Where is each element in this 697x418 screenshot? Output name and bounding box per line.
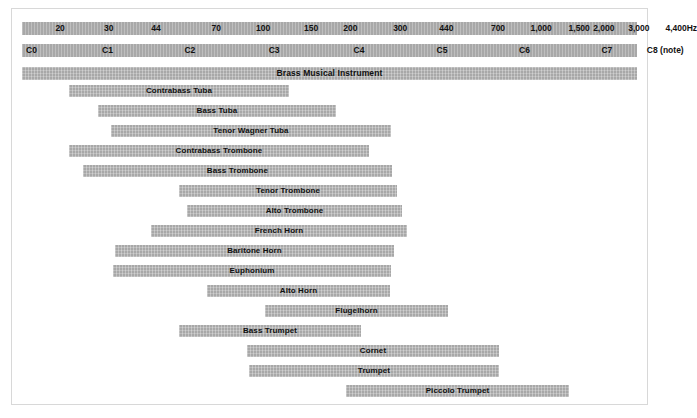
frequency-axis-tick: 100 — [256, 22, 270, 35]
master-band-label: Brass Musical Instrument — [22, 67, 637, 80]
frequency-axis-tick: 150 — [304, 22, 318, 35]
instrument-bar: Cornet — [247, 345, 499, 357]
instrument-bar: Alto Horn — [207, 285, 390, 297]
instrument-bar-label: Euphonium — [113, 265, 391, 277]
instrument-bar-label: Bass Trumpet — [179, 325, 361, 337]
instrument-bar-label: Bass Tuba — [98, 105, 336, 117]
instrument-bar: Tenor Wagner Tuba — [111, 125, 391, 137]
frequency-axis-tick: 200 — [343, 22, 357, 35]
frequency-axis-tick: 20 — [55, 22, 64, 35]
instrument-bar-label: French Horn — [151, 225, 407, 237]
instrument-bar: Contrabass Tuba — [69, 85, 289, 97]
instrument-bar-label: Tenor Wagner Tuba — [111, 125, 391, 137]
instrument-bar-label: Contrabass Trombone — [69, 145, 369, 157]
chart-frame: 203044701001502003004407001,0001,5002,00… — [11, 8, 648, 405]
note-axis-tick: C2 — [184, 44, 195, 57]
note-axis-tick: C5 — [437, 44, 448, 57]
note-axis-tick: C7 — [601, 44, 612, 57]
instrument-bar: French Horn — [151, 225, 407, 237]
frequency-axis-tick: 700 — [491, 22, 505, 35]
instrument-bar-label: Baritone Horn — [115, 245, 394, 257]
master-band: Brass Musical Instrument — [22, 67, 637, 80]
instrument-bar-label: Alto Horn — [207, 285, 390, 297]
frequency-axis-tick: 1,000 — [530, 22, 551, 35]
instrument-bar: Trumpet — [249, 365, 499, 377]
instrument-bar: Piccolo Trumpet — [346, 385, 569, 397]
instrument-bar-label: Cornet — [247, 345, 499, 357]
frequency-axis-tick: 440 — [439, 22, 453, 35]
note-axis-tick: C1 — [102, 44, 113, 57]
frequency-axis-tick: 30 — [104, 22, 113, 35]
instrument-bar-label: Flugelhorn — [265, 305, 448, 317]
frequency-axis-tick: 70 — [212, 22, 221, 35]
frequency-axis-tick: 300 — [393, 22, 407, 35]
frequency-axis-tick: 2,000 — [593, 22, 614, 35]
instrument-bar: Bass Tuba — [98, 105, 336, 117]
frequency-axis-tick: 44 — [151, 22, 160, 35]
instrument-bar: Tenor Trombone — [179, 185, 397, 197]
instrument-bar-label: Piccolo Trumpet — [346, 385, 569, 397]
instrument-bar: Bass Trombone — [83, 165, 392, 177]
instrument-bar: Alto Trombone — [187, 205, 402, 217]
frequency-axis: 203044701001502003004407001,0001,5002,00… — [22, 22, 637, 35]
note-axis: C0C1C2C3C4C5C6C7C8 (note) — [22, 44, 637, 57]
instrument-bar-label: Bass Trombone — [83, 165, 392, 177]
frequency-axis-tick: 1,500 — [569, 22, 590, 35]
instrument-bar-label: Contrabass Tuba — [69, 85, 289, 97]
note-axis-tick: C3 — [269, 44, 280, 57]
frequency-axis-tick: 3,000 — [628, 22, 649, 35]
note-axis-tick: C0 — [26, 44, 37, 57]
instrument-bar: Contrabass Trombone — [69, 145, 369, 157]
instrument-bar: Flugelhorn — [265, 305, 448, 317]
instrument-bar: Baritone Horn — [115, 245, 394, 257]
note-axis-tick: C4 — [354, 44, 365, 57]
note-axis-tick: C6 — [519, 44, 530, 57]
instrument-bar: Euphonium — [113, 265, 391, 277]
instrument-bar-label: Trumpet — [249, 365, 499, 377]
frequency-axis-tick: 4,400Hz — [665, 22, 697, 35]
instrument-bar-label: Tenor Trombone — [179, 185, 397, 197]
instrument-bar-label: Alto Trombone — [187, 205, 402, 217]
note-axis-tick: C8 (note) — [647, 44, 684, 57]
instrument-bar: Bass Trumpet — [179, 325, 361, 337]
